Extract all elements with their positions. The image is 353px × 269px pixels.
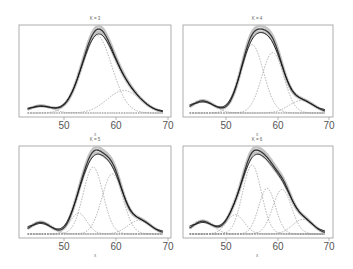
- x-tick-label: 60: [272, 241, 284, 252]
- x-tick-label: 60: [110, 241, 122, 252]
- x-axis-label: x: [94, 253, 97, 258]
- panel-k6: K = 6 50 60 70 x: [183, 137, 335, 258]
- density-curves: [190, 147, 325, 234]
- component-curve: [190, 219, 325, 234]
- x-tick-label: 50: [58, 241, 70, 252]
- panel-title: K = 3: [90, 16, 101, 21]
- posterior-band: [190, 26, 325, 111]
- x-tick-label: 60: [110, 120, 122, 131]
- density-curves: [28, 147, 163, 234]
- mixture-fit-line: [28, 150, 163, 232]
- panel-title: K = 4: [252, 16, 263, 21]
- posterior-band: [190, 153, 325, 233]
- component-curve: [190, 188, 325, 234]
- plot-frame: [19, 25, 171, 117]
- x-tick-label: 70: [162, 241, 174, 252]
- posterior-band: [28, 26, 163, 111]
- component-curve: [28, 220, 163, 234]
- density-curves: [28, 26, 163, 113]
- x-axis-label: x: [256, 253, 259, 258]
- x-tick-label: 70: [162, 120, 174, 131]
- x-tick-label: 70: [323, 241, 335, 252]
- panel-k5: K = 5 50 60 70 x: [19, 137, 174, 258]
- panel-title: K = 6: [252, 137, 263, 142]
- x-tick-label: 50: [220, 241, 232, 252]
- x-tick-label: 60: [272, 120, 284, 131]
- panel-k3: K = 3 50 60 70 x: [19, 16, 174, 137]
- mixture-fit-line: [190, 150, 325, 232]
- x-tick-label: 50: [220, 120, 232, 131]
- posterior-band: [190, 150, 325, 232]
- component-curve: [190, 189, 325, 234]
- figure: K = 3 50 60 70 x K = 4 50 60 70 x K = 5 …: [0, 0, 353, 269]
- density-curves: [190, 26, 325, 113]
- panel-k4: K = 4 50 60 70 x: [183, 16, 335, 137]
- kde-line: [190, 33, 325, 110]
- x-tick-label: 70: [323, 120, 335, 131]
- panel-title: K = 5: [90, 137, 101, 142]
- x-tick-label: 50: [58, 120, 70, 131]
